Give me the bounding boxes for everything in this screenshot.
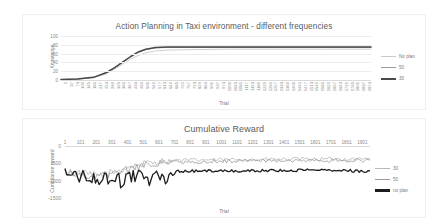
x-tick-label: 1405	[292, 82, 296, 91]
legend-swatch	[375, 168, 390, 169]
x-tick-label: 701	[171, 140, 179, 145]
x-tick-label: 1009	[228, 82, 232, 91]
x-tick-label: 1153	[251, 82, 255, 91]
x-tick-label: 1873	[368, 82, 372, 91]
knowledge-plot-area: Knowledge 020406080100 13773109145181217…	[61, 36, 371, 80]
x-tick-label: 289	[111, 82, 115, 89]
x-tick-label: 1001	[216, 140, 226, 145]
x-tick-label: 1081	[239, 82, 243, 91]
x-tick-label: 1301	[263, 140, 273, 145]
x-tick-label: 253	[105, 82, 109, 89]
series-line-30	[65, 157, 370, 177]
legend-label: 50	[393, 177, 398, 182]
x-tick-label: 829	[198, 82, 202, 89]
x-tick-label: 1601	[310, 140, 320, 145]
reward-x-axis-ticks: 1101201301401501601701801901100111011201…	[65, 137, 370, 146]
x-tick-label: 649	[169, 82, 173, 89]
x-tick-label: 685	[175, 82, 179, 89]
reward-chart-panel: Cumulative Reward Cumulative reward 0-50…	[22, 118, 426, 218]
x-tick-label: 1837	[362, 82, 366, 91]
x-tick-label: 101	[77, 140, 85, 145]
y-tick-label: 40	[53, 60, 58, 65]
x-tick-label: 1	[64, 140, 67, 145]
x-tick-label: 401	[124, 140, 132, 145]
x-tick-label: 1501	[295, 140, 305, 145]
x-tick-label: 541	[152, 82, 156, 89]
legend-item: No plan	[381, 51, 415, 62]
x-tick-label: 721	[181, 82, 185, 89]
y-tick-label: 80	[53, 42, 58, 47]
x-tick-label: 865	[204, 82, 208, 89]
x-tick-label: 501	[139, 140, 147, 145]
gridline	[61, 54, 371, 55]
x-tick-label: 1701	[326, 140, 336, 145]
x-tick-label: 433	[134, 82, 138, 89]
reward-x-axis-label: Trial	[23, 208, 425, 214]
x-tick-label: 1621	[327, 82, 331, 91]
series-line-no-plan	[65, 169, 370, 188]
knowledge-chart-panel: Action Planning in Taxi environment - di…	[22, 14, 426, 110]
reward-series-plot	[65, 146, 370, 198]
knowledge-series-plot	[61, 36, 371, 80]
gridline	[61, 45, 371, 46]
legend-label: 30	[393, 166, 398, 171]
x-tick-label: 505	[146, 82, 150, 89]
gridline	[61, 71, 371, 72]
x-tick-label: 1477	[304, 82, 308, 91]
x-tick-label: 145	[87, 82, 91, 89]
legend-item: 50	[381, 62, 415, 73]
x-tick-label: 1549	[315, 82, 319, 91]
x-tick-label: 397	[128, 82, 132, 89]
legend-swatch	[381, 67, 396, 68]
x-tick-label: 181	[93, 82, 97, 89]
legend-item: 30	[381, 73, 415, 84]
y-tick-label: 60	[53, 51, 58, 56]
legend-swatch	[375, 189, 390, 191]
y-tick-label: -1000	[48, 178, 61, 184]
legend-item: 30	[375, 163, 408, 174]
y-tick-label: -500	[51, 160, 61, 166]
reward-y-axis-label: Cumulative reward	[49, 141, 55, 201]
x-tick-label: 201	[92, 140, 100, 145]
x-tick-label: 1401	[279, 140, 289, 145]
reward-legend: 3050no plan	[375, 163, 408, 196]
x-tick-label: 1801	[342, 140, 352, 145]
x-tick-label: 1333	[280, 82, 284, 91]
legend-label: 30	[399, 76, 404, 81]
legend-label: no plan	[393, 188, 408, 193]
x-tick-label: 217	[99, 82, 103, 89]
x-tick-label: 1101	[232, 140, 242, 145]
x-tick-label: 1657	[333, 82, 337, 91]
knowledge-x-axis-label: Trial	[23, 100, 425, 106]
x-tick-label: 469	[140, 82, 144, 89]
x-tick-label: 1369	[286, 82, 290, 91]
x-tick-label: 1117	[245, 82, 249, 91]
legend-item: no plan	[375, 185, 408, 196]
reward-plot-area: Cumulative reward 0-500-1000-1500 110120…	[65, 146, 370, 198]
series-line-50	[61, 47, 371, 79]
axis-baseline	[65, 146, 370, 147]
x-tick-label: 1441	[298, 82, 302, 91]
gridline	[61, 36, 371, 37]
x-tick-label: 37	[70, 82, 74, 87]
x-tick-label: 901	[202, 140, 210, 145]
x-tick-label: 613	[163, 82, 167, 89]
knowledge-chart-title: Action Planning in Taxi environment - di…	[23, 22, 425, 31]
y-tick-label: 20	[53, 69, 58, 74]
figure-container: Action Planning in Taxi environment - di…	[0, 0, 437, 224]
series-line-50	[65, 158, 370, 179]
x-tick-label: 757	[187, 82, 191, 89]
x-tick-label: 973	[222, 82, 226, 89]
x-tick-label: 1225	[263, 82, 267, 91]
x-tick-label: 1201	[248, 140, 258, 145]
x-tick-label: 1585	[321, 82, 325, 91]
gridline	[61, 62, 371, 63]
x-tick-label: 1901	[357, 140, 367, 145]
y-tick-label: 0	[58, 143, 61, 149]
y-tick-label: 100	[50, 34, 58, 39]
x-tick-label: 301	[108, 140, 116, 145]
x-tick-label: 1189	[257, 82, 261, 91]
legend-swatch	[381, 78, 396, 80]
y-tick-label: 0	[55, 78, 58, 83]
legend-label: No plan	[399, 54, 415, 59]
